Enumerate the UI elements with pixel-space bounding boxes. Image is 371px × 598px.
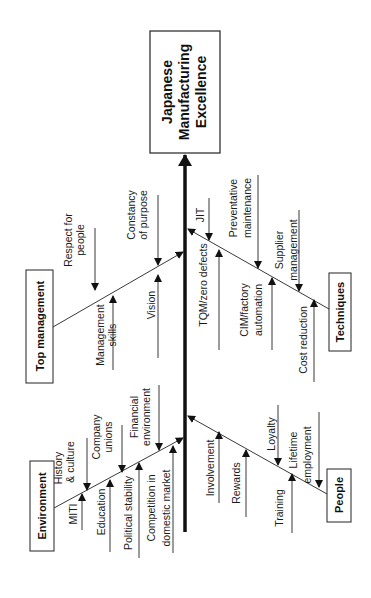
cause-supplier-management-l2: management xyxy=(287,219,299,280)
cause-vision: Vision xyxy=(145,291,157,320)
cause-involvement: Involvement xyxy=(204,440,216,497)
cause-history-culture-l1: History xyxy=(52,451,64,484)
fishbone-diagram: Japanese Manufacturing Excellence Top ma… xyxy=(0,0,371,598)
cause-cim-l2: automation xyxy=(252,284,264,336)
category-label-top-management: Top management xyxy=(34,281,46,372)
cause-management-skills-l1: Management xyxy=(94,304,106,365)
effect-box: Japanese Manufacturing Excellence xyxy=(150,31,220,153)
effect-label-line3: Excellence xyxy=(193,56,209,129)
cause-history-culture-l2: & culture xyxy=(64,441,76,483)
cause-political-stability: Political stability xyxy=(122,475,134,550)
cause-preventative-maintenance-l1: Preventative xyxy=(227,179,239,238)
cause-training: Training xyxy=(273,489,285,527)
category-environment: Environment History & culture MITI Compa… xyxy=(30,385,183,558)
cause-loyalty: Loyalty xyxy=(265,417,277,451)
category-techniques: Techniques JIT TQM/zero defects Preventa… xyxy=(188,175,351,382)
category-label-techniques: Techniques xyxy=(334,282,346,342)
cause-respect-for-people-l2: people xyxy=(74,224,86,256)
cause-company-unions-l2: unions xyxy=(102,422,114,453)
cause-lifetime-employment-l2: employment xyxy=(301,426,313,483)
cause-lifetime-employment-l1: Lifetime xyxy=(287,431,299,468)
cause-constancy-of-purpose-l2: of purpose xyxy=(137,190,149,240)
cause-miti: MITI xyxy=(67,504,79,525)
category-label-environment: Environment xyxy=(36,472,48,540)
cause-preventative-maintenance-l2: maintenance xyxy=(241,178,253,238)
cause-financial-environment-l1: Financial xyxy=(128,396,140,438)
cause-supplier-management-l1: Supplier xyxy=(273,230,285,269)
cause-constancy-of-purpose-l1: Constancy xyxy=(125,189,137,239)
category-people: People Involvement Rewards Loyalty Train… xyxy=(188,405,351,533)
effect-label-line1: Japanese xyxy=(159,60,175,124)
cause-cost-reduction: Cost reduction xyxy=(297,306,309,374)
cause-tqm: TQM/zero defects xyxy=(197,243,209,326)
cause-education: Education xyxy=(95,488,107,535)
cause-company-unions-l1: Company xyxy=(90,414,102,460)
category-label-people: People xyxy=(333,477,345,513)
cause-respect-for-people-l1: Respect for xyxy=(62,213,74,267)
cause-rewards: Rewards xyxy=(230,462,242,503)
cause-competition-l1: Competition in xyxy=(145,474,157,541)
cause-cim-l1: CIM/factory xyxy=(238,282,250,336)
cause-competition-l2: domestic market xyxy=(160,469,172,546)
cause-financial-environment-l2: environment xyxy=(140,388,152,446)
cause-management-skills-l2: skills xyxy=(106,324,118,347)
category-top-management: Top management Respect for people Manage… xyxy=(26,189,183,383)
cause-jit: JIT xyxy=(194,207,206,222)
effect-label-line2: Manufacturing xyxy=(176,44,192,140)
